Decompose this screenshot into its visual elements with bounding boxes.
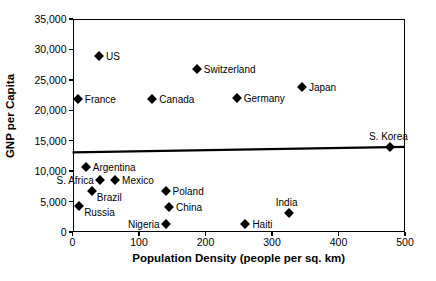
x-tick-label: 100	[130, 236, 148, 248]
x-tick-mark	[205, 232, 206, 236]
x-tick-label: 400	[330, 236, 348, 248]
chart-container: GNP per Capita 05,00010,00015,00020,0002…	[0, 0, 436, 281]
x-tick-mark	[338, 232, 339, 236]
x-axis-label: Population Density (people per sq. km)	[73, 252, 406, 264]
x-tick-label: 300	[263, 236, 281, 248]
trendline-layer	[0, 0, 436, 281]
x-tick-mark	[138, 232, 139, 236]
x-tick-mark	[404, 232, 405, 236]
x-tick-mark	[271, 232, 272, 236]
trendline	[73, 147, 406, 152]
x-tick-label: 500	[396, 236, 414, 248]
x-tick-mark	[72, 232, 73, 236]
x-tick-label: 0	[70, 236, 76, 248]
x-tick-label: 200	[197, 236, 215, 248]
